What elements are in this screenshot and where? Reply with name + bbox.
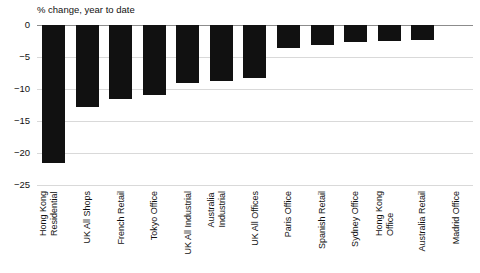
x-label-slot: UK All Offices bbox=[238, 191, 272, 273]
x-axis-tick-label-line: Madrid Office bbox=[451, 191, 462, 244]
x-axis-tick-label: Tokyo Office bbox=[149, 191, 160, 240]
x-axis-tick-label-line: Office bbox=[384, 191, 395, 236]
bar[interactable] bbox=[378, 25, 401, 41]
x-axis-tick-label: UK All Shops bbox=[82, 191, 93, 244]
bar-slot bbox=[272, 25, 306, 185]
y-tick-label: −15 bbox=[14, 116, 30, 126]
x-label-slot: Hong KongResidential bbox=[37, 191, 71, 273]
x-axis-tick-label: Spanish Retail bbox=[317, 191, 328, 249]
bar[interactable] bbox=[411, 25, 434, 40]
bar-slot bbox=[305, 25, 339, 185]
x-axis-tick-label-line: French Retail bbox=[115, 191, 126, 245]
bar-series bbox=[37, 25, 473, 185]
x-axis-tick-label-line: Hong Kong bbox=[38, 191, 49, 236]
x-axis-tick-label-line: UK All Offices bbox=[249, 191, 260, 246]
bar[interactable] bbox=[311, 25, 334, 45]
chart-title: % change, year to date bbox=[37, 4, 135, 15]
bar[interactable] bbox=[277, 25, 300, 48]
bar-slot bbox=[171, 25, 205, 185]
x-axis-tick-label-line: Tokyo Office bbox=[149, 191, 160, 240]
x-axis-tick-label-line: Australia Retail bbox=[417, 191, 428, 252]
bar[interactable] bbox=[210, 25, 233, 81]
x-axis-tick-label-line: Spanish Retail bbox=[317, 191, 328, 249]
x-label-slot: UK All Industrial bbox=[171, 191, 205, 273]
x-label-slot: Sydney Office bbox=[339, 191, 373, 273]
bar-slot bbox=[372, 25, 406, 185]
x-axis-tick-label: AustraliaIndustrial bbox=[205, 191, 226, 228]
y-axis: 0−5−10−15−20−25 bbox=[0, 0, 34, 273]
bar[interactable] bbox=[143, 25, 166, 95]
x-axis-tick-label: Madrid Office bbox=[451, 191, 462, 244]
x-label-slot: UK All Shops bbox=[71, 191, 105, 273]
x-axis-tick-label: Paris Office bbox=[283, 191, 294, 237]
x-axis-tick-label-line: Sydney Office bbox=[350, 191, 361, 247]
x-axis-tick-label-line: Paris Office bbox=[283, 191, 294, 237]
bar-slot bbox=[339, 25, 373, 185]
y-tick-label: −5 bbox=[19, 52, 30, 62]
x-axis-tick-label: Sydney Office bbox=[350, 191, 361, 247]
y-tick-label: 0 bbox=[25, 20, 30, 30]
x-label-slot: French Retail bbox=[104, 191, 138, 273]
bar-slot bbox=[71, 25, 105, 185]
bar[interactable] bbox=[42, 25, 65, 163]
x-axis-tick-label-line: Australia bbox=[205, 191, 216, 228]
x-label-slot: Paris Office bbox=[272, 191, 306, 273]
x-label-slot: Spanish Retail bbox=[305, 191, 339, 273]
plot-area bbox=[37, 25, 473, 185]
x-axis-tick-label: UK All Offices bbox=[249, 191, 260, 246]
bar-slot bbox=[238, 25, 272, 185]
bar-slot bbox=[205, 25, 239, 185]
x-axis-tick-label-line: Residential bbox=[48, 191, 59, 236]
bar[interactable] bbox=[176, 25, 199, 83]
x-axis-tick-label-line: Hong Kong bbox=[373, 191, 384, 236]
bar-slot bbox=[37, 25, 71, 185]
bar-chart: % change, year to date 0−5−10−15−20−25 H… bbox=[0, 0, 480, 273]
bar-slot bbox=[406, 25, 440, 185]
bar[interactable] bbox=[344, 25, 367, 42]
x-label-slot: AustraliaIndustrial bbox=[205, 191, 239, 273]
x-axis-labels: Hong KongResidentialUK All ShopsFrench R… bbox=[37, 191, 473, 273]
x-label-slot: Hong KongOffice bbox=[372, 191, 406, 273]
y-tick-label: −25 bbox=[14, 180, 30, 190]
bar[interactable] bbox=[109, 25, 132, 99]
x-axis-tick-label: French Retail bbox=[115, 191, 126, 245]
x-axis-tick-label: Australia Retail bbox=[417, 191, 428, 252]
y-tick-label: −20 bbox=[14, 148, 30, 158]
x-label-slot: Tokyo Office bbox=[138, 191, 172, 273]
bar-slot bbox=[104, 25, 138, 185]
x-axis-tick-label: UK All Industrial bbox=[182, 191, 193, 255]
gridline bbox=[37, 185, 473, 186]
y-tick-label: −10 bbox=[14, 84, 30, 94]
x-axis-tick-label-line: UK All Shops bbox=[82, 191, 93, 244]
bar-slot bbox=[138, 25, 172, 185]
bar[interactable] bbox=[76, 25, 99, 107]
x-axis-tick-label: Hong KongResidential bbox=[38, 191, 59, 236]
x-axis-tick-label-line: UK All Industrial bbox=[182, 191, 193, 255]
x-label-slot: Madrid Office bbox=[439, 191, 473, 273]
x-axis-tick-label: Hong KongOffice bbox=[373, 191, 394, 236]
x-label-slot: Australia Retail bbox=[406, 191, 440, 273]
bar[interactable] bbox=[243, 25, 266, 78]
x-axis-tick-label-line: Industrial bbox=[216, 191, 227, 228]
bar-slot bbox=[439, 25, 473, 185]
